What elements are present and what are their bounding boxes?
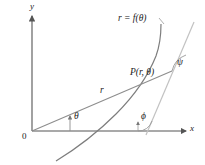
- curve-equation-label: r = f(θ): [118, 14, 147, 24]
- point-p-label: P(r, θ): [130, 68, 154, 78]
- x-axis-label: x: [190, 124, 194, 133]
- radius-label: r: [100, 86, 104, 96]
- phi-angle-arc: [138, 121, 152, 131]
- origin-label: 0: [22, 132, 27, 141]
- curve-label-leader: [159, 18, 164, 24]
- polar-curve: [56, 24, 161, 161]
- y-axis-label: y: [30, 2, 34, 11]
- psi-label: ψ: [177, 58, 183, 68]
- theta-label: θ: [74, 112, 79, 122]
- phi-label: ϕ: [141, 112, 146, 122]
- figure-canvas: [0, 0, 205, 165]
- polar-coordinates-figure: y x 0 r = f(θ) P(r, θ) r θ ϕ ψ: [0, 0, 205, 165]
